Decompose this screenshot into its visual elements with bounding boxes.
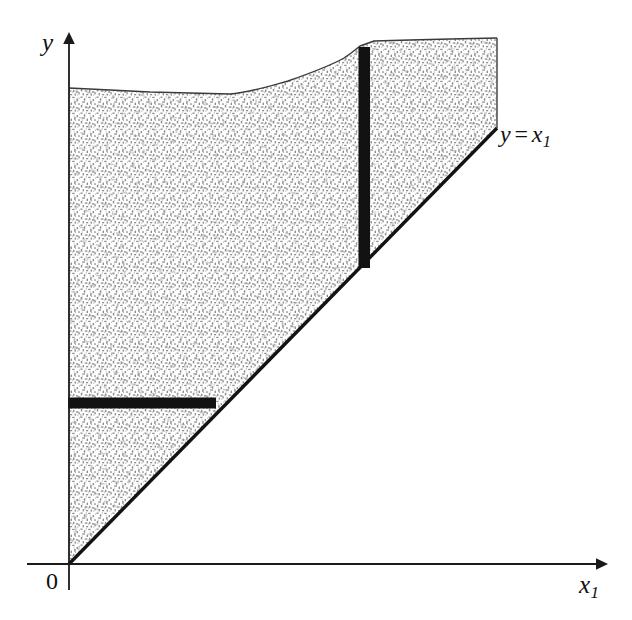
equation-subscript: 1	[543, 132, 551, 151]
origin-label: 0	[46, 569, 58, 593]
vertical-slice-bar	[359, 47, 371, 268]
line-equation-label: y=x1	[500, 122, 551, 150]
figure-canvas: y x1 0 y=x1	[0, 0, 632, 620]
x-axis-label: x1	[579, 572, 599, 601]
equation-lhs: y	[500, 121, 511, 147]
x-axis-label-base: x	[579, 571, 590, 598]
diagram-svg	[0, 0, 632, 620]
arrow-up-icon	[63, 32, 75, 44]
shaded-region	[60, 30, 510, 575]
x-axis-label-subscript: 1	[590, 583, 599, 602]
equation-operator: =	[514, 121, 528, 147]
equation-rhs: x	[532, 121, 543, 147]
y-axis-label: y	[42, 30, 53, 55]
horizontal-slice-bar	[68, 398, 216, 409]
arrow-right-icon	[596, 558, 608, 570]
